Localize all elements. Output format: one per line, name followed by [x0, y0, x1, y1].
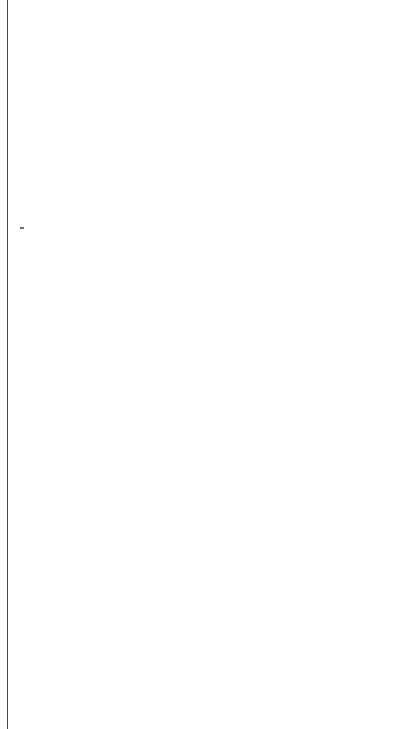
- corporate-planning-zone: [22, 227, 24, 229]
- page-border: [7, 0, 8, 729]
- diagram-canvas: [0, 0, 417, 729]
